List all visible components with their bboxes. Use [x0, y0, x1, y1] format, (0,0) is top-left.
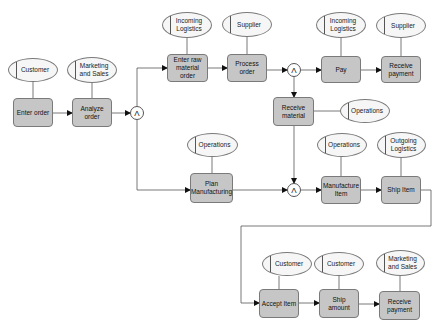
role-bar-icon: [348, 103, 349, 119]
and-gate-icon[interactable]: Λ: [287, 63, 301, 77]
function-enter-order[interactable]: Enter order: [13, 98, 53, 127]
role-customer[interactable]: Customer: [8, 58, 58, 82]
role-incoming-logistics[interactable]: Incoming Logistics: [162, 12, 212, 38]
role-supplier[interactable]: Supplier: [222, 12, 272, 37]
role-marketing-and-sales-2[interactable]: Marketing and Sales: [376, 250, 425, 276]
role-bar-icon: [195, 137, 196, 153]
function-pay[interactable]: Pay: [321, 56, 361, 83]
role-bar-icon: [324, 16, 325, 34]
role-bar-icon: [230, 16, 231, 33]
function-ship-amount[interactable]: Ship amount: [319, 289, 359, 318]
role-operations[interactable]: Operations: [340, 99, 390, 123]
role-marketing-and-sales[interactable]: Marketing and Sales: [67, 57, 117, 83]
function-analyze-order[interactable]: Analyze order: [72, 98, 112, 127]
connector-lines: [0, 0, 438, 328]
and-gate-icon[interactable]: Λ: [287, 183, 301, 197]
role-incoming-logistics-2[interactable]: Incoming Logistics: [316, 12, 366, 38]
role-bar-icon: [170, 16, 171, 34]
role-bar-icon: [75, 61, 76, 79]
role-bar-icon: [322, 256, 323, 272]
function-process-order[interactable]: Process order: [227, 54, 267, 82]
function-receive-material[interactable]: Receive material: [273, 97, 314, 126]
function-accept-item[interactable]: Accept Item: [259, 289, 299, 318]
and-gate-icon[interactable]: Λ: [130, 106, 144, 120]
role-bar-icon: [16, 62, 17, 78]
process-diagram: Customer Marketing and Sales Incoming Lo…: [0, 0, 438, 328]
role-customer-2[interactable]: Customer: [262, 252, 312, 276]
function-plan-manufacturing[interactable]: Plan Manufacturing: [190, 173, 233, 203]
function-receive-payment[interactable]: Receive payment: [381, 56, 421, 83]
role-bar-icon: [384, 254, 385, 272]
role-bar-icon: [325, 137, 326, 153]
function-manufacture-item[interactable]: Manufacture Item: [321, 176, 361, 204]
function-receive-payment-2[interactable]: Receive payment: [379, 291, 420, 320]
function-ship-item[interactable]: Ship Item: [381, 176, 421, 204]
role-bar-icon: [385, 136, 386, 154]
role-supplier-2[interactable]: Supplier: [376, 13, 426, 38]
role-customer-3[interactable]: Customer: [314, 252, 364, 276]
role-operations-3[interactable]: Operations: [317, 133, 367, 157]
function-enter-raw-material-order[interactable]: Enter raw material order: [167, 54, 208, 82]
role-operations-2[interactable]: Operations: [187, 133, 238, 157]
role-outgoing-logistics[interactable]: Outgoing Logistics: [377, 132, 426, 158]
role-bar-icon: [270, 256, 271, 272]
role-bar-icon: [384, 17, 385, 34]
